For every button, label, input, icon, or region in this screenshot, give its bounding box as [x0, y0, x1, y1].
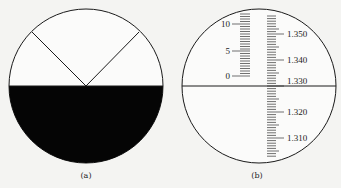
dark-half	[0, 86, 180, 176]
panel-b: 10 5 0	[182, 9, 336, 180]
panel-a-label: (a)	[80, 171, 91, 180]
refractometer-figure: (a) 10 5 0	[0, 0, 341, 188]
right-scale-label-1310: 1.310	[287, 133, 308, 143]
left-scale-label-5: 5	[226, 46, 231, 56]
panel-b-label: (b)	[251, 171, 262, 180]
right-scale-label-1340: 1.340	[287, 55, 308, 65]
left-scale-label-10: 10	[221, 19, 231, 29]
right-scale-label-1320: 1.320	[287, 107, 308, 117]
left-scale-label-0: 0	[226, 71, 231, 81]
panel-a: (a)	[0, 9, 180, 180]
right-scale-label-1330: 1.330	[287, 76, 308, 86]
right-scale-label-1350: 1.350	[287, 29, 308, 39]
